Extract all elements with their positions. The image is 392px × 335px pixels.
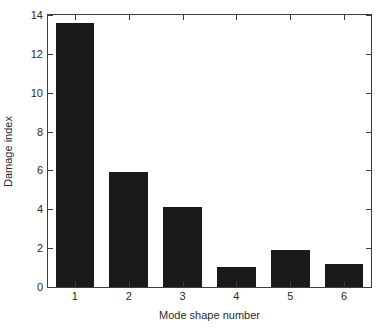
bar-mode-3	[163, 207, 202, 287]
x-tick-mark-top-5	[290, 15, 291, 20]
y-tick-mark-right-4	[366, 209, 371, 210]
x-tick-label-4: 4	[233, 291, 239, 302]
x-tick-mark-top-1	[75, 15, 76, 20]
plot-area: 02468101214 123456	[47, 14, 372, 288]
x-tick-mark-1	[75, 282, 76, 287]
x-tick-label-1: 1	[72, 291, 78, 302]
y-tick-mark-right-6	[366, 170, 371, 171]
y-tick-mark-10	[48, 93, 53, 94]
y-tick-label-10: 10	[31, 87, 43, 98]
x-tick-label-5: 5	[287, 291, 293, 302]
y-tick-mark-6	[48, 170, 53, 171]
y-axis-title: Damage index	[0, 14, 16, 288]
y-tick-mark-2	[48, 248, 53, 249]
x-tick-mark-4	[236, 282, 237, 287]
x-tick-label-3: 3	[180, 291, 186, 302]
y-tick-mark-right-14	[366, 15, 371, 16]
bar-mode-2	[109, 172, 148, 287]
y-tick-label-14: 14	[31, 10, 43, 21]
y-tick-mark-14	[48, 15, 53, 16]
x-tick-mark-5	[290, 282, 291, 287]
x-axis-title: Mode shape number	[47, 310, 372, 321]
y-tick-mark-right-2	[366, 248, 371, 249]
x-tick-mark-3	[183, 282, 184, 287]
y-tick-label-0: 0	[37, 282, 43, 293]
y-tick-mark-right-8	[366, 132, 371, 133]
y-tick-mark-right-12	[366, 54, 371, 55]
y-tick-mark-right-0	[366, 287, 371, 288]
y-tick-label-6: 6	[37, 165, 43, 176]
bar-series-damage-index	[48, 15, 371, 287]
x-tick-mark-top-6	[344, 15, 345, 20]
y-tick-label-12: 12	[31, 48, 43, 59]
x-tick-label-6: 6	[341, 291, 347, 302]
bar-mode-1	[56, 23, 95, 287]
x-tick-mark-top-3	[183, 15, 184, 20]
damage-index-bar-chart: 02468101214 123456 Mode shape number Dam…	[0, 0, 392, 335]
y-tick-mark-4	[48, 209, 53, 210]
y-tick-label-4: 4	[37, 204, 43, 215]
y-tick-mark-0	[48, 287, 53, 288]
y-tick-label-8: 8	[37, 126, 43, 137]
y-tick-mark-right-10	[366, 93, 371, 94]
x-tick-label-2: 2	[126, 291, 132, 302]
y-tick-label-2: 2	[37, 243, 43, 254]
y-tick-mark-8	[48, 132, 53, 133]
x-tick-mark-top-4	[236, 15, 237, 20]
y-axis-title-text: Damage index	[3, 116, 14, 187]
x-tick-mark-2	[129, 282, 130, 287]
y-tick-mark-12	[48, 54, 53, 55]
x-tick-mark-top-2	[129, 15, 130, 20]
x-tick-mark-6	[344, 282, 345, 287]
